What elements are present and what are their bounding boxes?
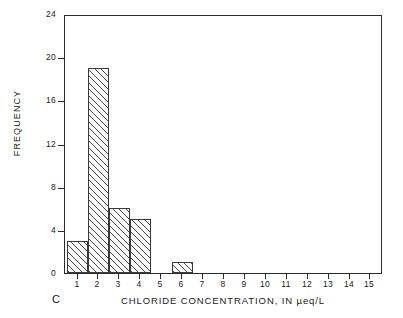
y-axis-tick-label: 24 bbox=[10, 10, 56, 19]
y-axis-title: FREQUENCY bbox=[12, 73, 22, 173]
x-axis-title: CHLORIDE CONCENTRATION, IN µeq/L bbox=[64, 295, 382, 306]
y-axis-tick-label: 20 bbox=[10, 53, 56, 62]
panel-label: C bbox=[52, 293, 60, 305]
plot-area bbox=[64, 15, 382, 274]
histogram-figure: FREQUENCY 04812162024 123456789101112131… bbox=[0, 0, 403, 318]
bar bbox=[172, 262, 193, 273]
y-axis-tick-label: 4 bbox=[10, 226, 56, 235]
x-axis-tick-label: 15 bbox=[357, 280, 381, 289]
y-axis-tick-label: 0 bbox=[10, 269, 56, 278]
bars-layer bbox=[65, 16, 381, 273]
y-axis-tick-label: 12 bbox=[10, 140, 56, 149]
bar bbox=[67, 241, 88, 273]
y-axis-tick-label: 16 bbox=[10, 96, 56, 105]
bar bbox=[109, 208, 130, 273]
bar bbox=[130, 219, 151, 273]
bar bbox=[88, 68, 109, 273]
y-axis-tick-label: 8 bbox=[10, 183, 56, 192]
